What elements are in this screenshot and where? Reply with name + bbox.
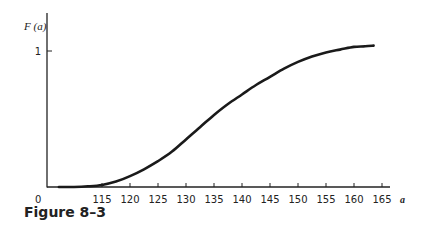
figure-caption: Figure 8–3 bbox=[24, 204, 106, 220]
x-tick-label: 125 bbox=[148, 194, 167, 205]
x-tick-label: 145 bbox=[260, 194, 279, 205]
y-axis-ticks: 1 bbox=[35, 46, 52, 57]
x-tick-label: 135 bbox=[204, 194, 223, 205]
x-tick-label: 120 bbox=[120, 194, 139, 205]
x-tick-label: 130 bbox=[176, 194, 195, 205]
x-tick-label: 140 bbox=[232, 194, 251, 205]
x-tick-label: 155 bbox=[316, 194, 335, 205]
x-tick-label: 165 bbox=[372, 194, 391, 205]
y-axis-label: F (a) bbox=[23, 20, 47, 33]
x-axis-ticks: 115120125130135140145150155160165 bbox=[92, 183, 391, 205]
y-tick-label: 1 bbox=[35, 46, 41, 57]
x-tick-label: 160 bbox=[344, 194, 363, 205]
cdf-curve bbox=[59, 46, 374, 187]
cdf-chart: 115120125130135140145150155160165 1 F (a… bbox=[0, 0, 426, 229]
x-axis-label: a bbox=[400, 194, 405, 205]
x-tick-label: 150 bbox=[288, 194, 307, 205]
